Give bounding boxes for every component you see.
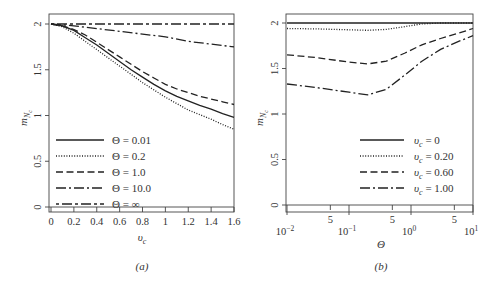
legend-label: υc = 1.00 (414, 182, 454, 197)
series-line (287, 23, 473, 30)
x-axis-label: Θ (377, 238, 385, 250)
y-tick-label: 1.5 (269, 62, 280, 75)
y-tick-label: 2 (32, 21, 43, 26)
x-tick-label: 0.8 (136, 216, 149, 227)
panel-caption: (b) (375, 260, 388, 273)
x-tick-label: 0.4 (90, 216, 104, 227)
legend: υc = 0υc = 0.20υc = 0.60υc = 1.00 (360, 134, 454, 197)
legend-label: υc = 0.60 (414, 166, 454, 181)
y-axis-label: mNc (253, 110, 269, 126)
series-line (51, 24, 234, 47)
x-tick-label: 0.2 (67, 216, 80, 227)
x-major-tick-label: 10−2 (276, 224, 295, 237)
y-tick-label: 1.5 (32, 63, 43, 76)
panel-b: 00.511.5210−210−1100101555ΘmNcυc = 0υc =… (253, 14, 478, 273)
x-tick-label: 0.6 (113, 216, 126, 227)
x-minor-tick-label: 5 (328, 214, 333, 225)
panel-caption: (a) (136, 260, 149, 273)
x-tick-label: 0 (48, 216, 53, 227)
series-line (287, 36, 473, 95)
x-axis-label: υc (138, 231, 147, 246)
y-tick-label: 1 (269, 111, 280, 116)
legend-label: Θ = 10.0 (112, 182, 151, 194)
y-tick-label: 1 (32, 113, 43, 118)
y-tick-label: 0 (269, 202, 280, 207)
series-line (51, 24, 234, 117)
legend-label: Θ = 0.2 (112, 150, 145, 162)
legend-label: υc = 0.20 (414, 150, 454, 165)
y-tick-label: 0.5 (32, 155, 43, 168)
panel-a: 00.511.5200.20.40.60.811.21.41.6υcmNcΘ =… (17, 14, 241, 273)
x-minor-tick-label: 5 (390, 214, 395, 225)
x-tick-label: 1.4 (205, 216, 219, 227)
x-major-tick-label: 101 (464, 224, 479, 237)
x-tick-label: 1.2 (182, 216, 195, 227)
x-tick-label: 1.6 (227, 216, 240, 227)
series-line (51, 24, 234, 105)
x-major-tick-label: 10−1 (338, 224, 357, 237)
y-tick-label: 0.5 (269, 153, 280, 166)
y-axis-label: mNc (17, 110, 33, 126)
legend-label: Θ = 0.01 (112, 134, 151, 146)
legend-label: Θ = 1.0 (112, 166, 146, 178)
x-major-tick-label: 100 (402, 224, 417, 237)
legend: Θ = 0.01Θ = 0.2Θ = 1.0Θ = 10.0Θ = ∞ (56, 134, 151, 210)
series-line (287, 29, 473, 64)
legend-label: Θ = ∞ (112, 198, 140, 210)
y-tick-label: 2 (269, 20, 280, 25)
legend-label: υc = 0 (414, 134, 440, 149)
figure: 00.511.5200.20.40.60.811.21.41.6υcmNcΘ =… (0, 0, 495, 287)
y-tick-label: 0 (32, 204, 43, 209)
x-minor-tick-label: 5 (452, 214, 457, 225)
x-tick-label: 1 (163, 216, 168, 227)
